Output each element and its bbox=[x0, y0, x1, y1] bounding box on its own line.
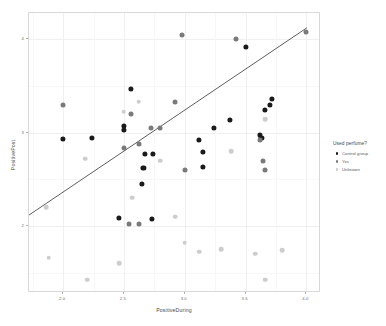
data-point bbox=[117, 261, 122, 266]
data-point bbox=[85, 278, 90, 283]
data-point bbox=[270, 96, 275, 101]
data-points-layer bbox=[29, 13, 319, 291]
x-tick-label: 2.0 bbox=[59, 296, 65, 301]
data-point bbox=[148, 125, 153, 130]
data-point bbox=[149, 217, 154, 222]
x-tick-mark bbox=[245, 292, 246, 294]
data-point bbox=[46, 255, 51, 260]
data-point bbox=[158, 158, 163, 163]
x-tick-mark bbox=[184, 292, 185, 294]
data-point bbox=[90, 136, 95, 141]
data-point bbox=[83, 156, 88, 161]
data-point bbox=[158, 125, 163, 130]
data-point bbox=[151, 151, 156, 156]
data-point bbox=[263, 278, 268, 283]
legend-item-yes[interactable]: Yes bbox=[333, 158, 385, 166]
x-tick-label: 4.0 bbox=[302, 296, 308, 301]
data-point bbox=[182, 167, 187, 172]
data-point bbox=[211, 125, 216, 130]
data-point bbox=[116, 216, 121, 221]
x-tick-mark bbox=[123, 292, 124, 294]
legend-key-icon bbox=[333, 158, 341, 166]
data-point bbox=[61, 136, 66, 141]
x-tick-label: 3.0 bbox=[181, 296, 187, 301]
data-point bbox=[262, 108, 267, 113]
x-tick-label: 3.5 bbox=[242, 296, 248, 301]
scatter-plot-figure: 2.02.53.03.54.0 234 PositiveDuring Posit… bbox=[0, 0, 386, 326]
data-point bbox=[263, 117, 268, 122]
x-axis-label: PositiveDuring bbox=[28, 307, 320, 313]
legend-dot-icon bbox=[336, 152, 339, 155]
legend: Used perfume? Control groupYesUnknown bbox=[333, 141, 385, 174]
data-point bbox=[126, 221, 131, 226]
legend-item-unknown[interactable]: Unknown bbox=[333, 166, 385, 174]
data-point bbox=[136, 141, 141, 146]
data-point bbox=[130, 196, 135, 201]
x-tick-label: 2.5 bbox=[120, 296, 126, 301]
legend-key-icon bbox=[333, 150, 341, 158]
data-point bbox=[280, 248, 285, 253]
data-point bbox=[260, 158, 265, 163]
legend-dot-icon bbox=[336, 160, 339, 163]
data-point bbox=[304, 29, 309, 34]
data-point bbox=[200, 150, 205, 155]
data-point bbox=[243, 44, 248, 49]
data-point bbox=[182, 240, 187, 245]
data-point bbox=[122, 110, 127, 115]
y-tick-label: 4 bbox=[14, 36, 24, 41]
plot-panel bbox=[28, 12, 320, 292]
data-point bbox=[263, 167, 268, 172]
data-point bbox=[129, 86, 134, 91]
y-tick-mark bbox=[26, 132, 28, 133]
data-point bbox=[180, 33, 185, 38]
y-tick-mark bbox=[26, 38, 28, 39]
data-point bbox=[121, 127, 126, 132]
x-tick-mark bbox=[305, 292, 306, 294]
data-point bbox=[136, 221, 141, 226]
data-point bbox=[136, 99, 141, 104]
legend-item-label: Control group bbox=[342, 151, 368, 156]
legend-dot-icon bbox=[336, 168, 339, 171]
legend-item-label: Yes bbox=[342, 159, 349, 164]
data-point bbox=[197, 250, 202, 255]
x-tick-mark bbox=[62, 292, 63, 294]
y-tick-label: 2 bbox=[14, 222, 24, 227]
data-point bbox=[140, 181, 145, 186]
legend-title: Used perfume? bbox=[333, 141, 385, 146]
data-point bbox=[121, 146, 126, 151]
data-point bbox=[229, 149, 234, 154]
data-point bbox=[129, 111, 134, 116]
data-point bbox=[267, 102, 272, 107]
data-point bbox=[197, 137, 202, 142]
data-point bbox=[173, 99, 178, 104]
data-point bbox=[61, 103, 66, 108]
data-point bbox=[142, 151, 147, 156]
legend-item-label: Unknown bbox=[342, 167, 360, 172]
data-point bbox=[253, 252, 258, 257]
data-point bbox=[141, 165, 146, 170]
data-point bbox=[258, 137, 263, 142]
legend-item-control-group[interactable]: Control group bbox=[333, 150, 385, 158]
data-point bbox=[200, 164, 205, 169]
data-point bbox=[44, 205, 49, 210]
data-point bbox=[227, 118, 232, 123]
data-point bbox=[173, 214, 178, 219]
y-axis-label: PositivePost bbox=[10, 120, 16, 190]
data-point bbox=[233, 37, 238, 42]
data-point bbox=[219, 247, 224, 252]
y-tick-mark bbox=[26, 225, 28, 226]
legend-items: Control groupYesUnknown bbox=[333, 150, 385, 174]
legend-key-icon bbox=[333, 166, 341, 174]
